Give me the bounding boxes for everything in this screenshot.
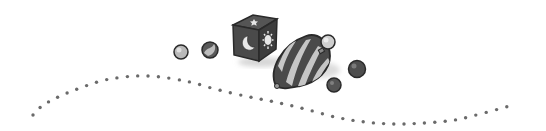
- path-dot: [464, 116, 467, 119]
- marble-swirl: [202, 42, 218, 58]
- path-dot: [505, 105, 508, 108]
- path-dot: [167, 76, 170, 79]
- path-dot: [270, 100, 273, 103]
- path-dot: [413, 122, 416, 125]
- toys-illustration: [0, 0, 546, 131]
- path-dot: [341, 117, 344, 120]
- path-dot: [75, 88, 78, 91]
- path-dot: [136, 74, 139, 77]
- path-dot: [218, 89, 221, 92]
- path-dot: [311, 109, 314, 112]
- path-dot: [372, 121, 375, 124]
- path-dot: [249, 96, 252, 99]
- path-dot: [454, 118, 457, 121]
- path-dot: [198, 83, 201, 86]
- path-dot: [65, 91, 68, 94]
- path-dot: [495, 108, 498, 111]
- path-dot: [402, 122, 405, 125]
- path-dot: [485, 111, 488, 114]
- path-dot: [146, 74, 149, 77]
- path-dot: [260, 98, 263, 101]
- path-dot: [105, 78, 108, 81]
- path-dot: [239, 93, 242, 96]
- path-dot: [423, 121, 426, 124]
- path-dot: [280, 102, 283, 105]
- path-dot: [47, 100, 50, 103]
- path-dot: [31, 113, 34, 116]
- path-dot: [208, 86, 211, 89]
- path-dot: [126, 75, 129, 78]
- path-dot: [351, 119, 354, 122]
- path-dot: [290, 104, 293, 107]
- marble-dark-small: [327, 78, 341, 92]
- path-dot: [157, 75, 160, 78]
- path-dot: [392, 122, 395, 125]
- marble-small-light: [174, 45, 188, 59]
- path-dot: [331, 115, 334, 118]
- path-dot: [474, 113, 477, 116]
- path-dot: [188, 80, 191, 83]
- dotted-path: [31, 74, 508, 126]
- path-dot: [115, 76, 118, 79]
- top-knob: [321, 35, 335, 49]
- toy-block: [233, 15, 277, 61]
- spinning-top: [274, 35, 335, 89]
- path-dot: [56, 96, 59, 99]
- marble-dark-large: [349, 61, 366, 78]
- path-dot: [362, 120, 365, 123]
- path-dot: [433, 121, 436, 124]
- path-dot: [321, 112, 324, 115]
- path-dot: [229, 91, 232, 94]
- path-dot: [444, 120, 447, 123]
- path-dot: [178, 78, 181, 81]
- path-dot: [382, 122, 385, 125]
- path-dot: [300, 107, 303, 110]
- path-dot: [38, 106, 41, 109]
- path-dot: [95, 81, 98, 84]
- path-dot: [85, 84, 88, 87]
